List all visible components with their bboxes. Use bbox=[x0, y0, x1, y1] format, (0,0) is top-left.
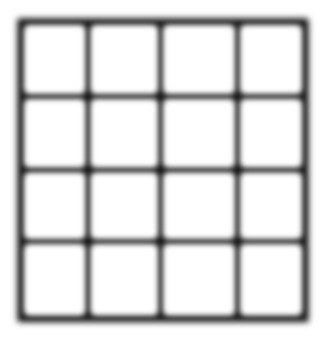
grid-cell bbox=[92, 174, 157, 238]
grid-cell bbox=[26, 174, 85, 238]
grid-cell bbox=[242, 174, 301, 238]
grid-cell bbox=[165, 27, 234, 93]
grid-svg bbox=[0, 0, 324, 339]
grid-cell bbox=[26, 246, 85, 315]
grid-cell bbox=[165, 246, 234, 315]
grid-cell bbox=[165, 101, 234, 167]
grid-cell bbox=[26, 101, 85, 167]
grid-cell bbox=[26, 27, 85, 93]
grid-cell bbox=[165, 174, 234, 238]
grid-cell bbox=[92, 27, 157, 93]
image-canvas bbox=[0, 0, 324, 339]
grid-cell bbox=[242, 246, 301, 315]
grid-figure bbox=[0, 0, 324, 339]
grid-cell bbox=[92, 101, 157, 167]
grid-cell bbox=[92, 246, 157, 315]
grid-cell bbox=[242, 101, 301, 167]
grid-cell bbox=[242, 27, 301, 93]
